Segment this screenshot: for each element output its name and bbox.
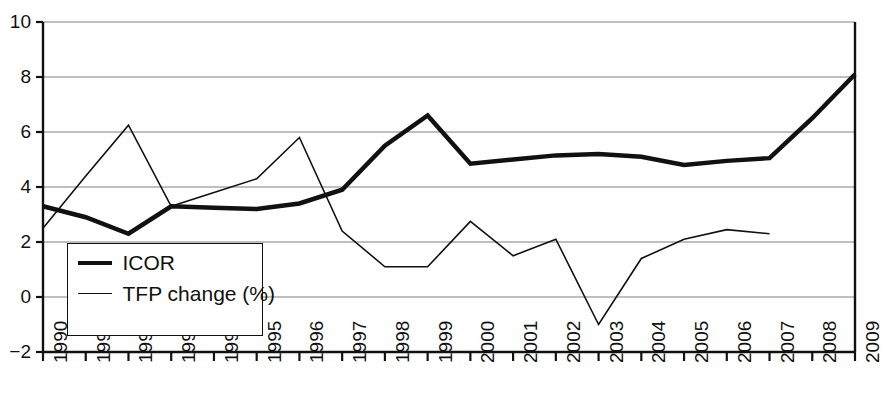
x-axis-label-2004: 2004 xyxy=(649,321,668,363)
x-axis-label-1995: 1995 xyxy=(265,321,284,363)
series-line-icor xyxy=(43,74,855,234)
legend-swatch-tfp-change xyxy=(78,293,112,294)
y-axis-label-0: 0 xyxy=(0,287,31,306)
y-axis-label-2: 2 xyxy=(0,232,31,251)
x-axis-label-2009: 2009 xyxy=(863,321,882,363)
x-axis-label-1996: 1996 xyxy=(307,321,326,363)
y-axis-label--2: −2 xyxy=(0,342,31,361)
legend-label-icor: ICOR xyxy=(123,252,176,273)
x-axis-label-2002: 2002 xyxy=(564,321,583,363)
y-axis-label-8: 8 xyxy=(0,67,31,86)
legend-swatch-icor xyxy=(78,261,112,265)
x-axis-label-2003: 2003 xyxy=(607,321,626,363)
legend-item-tfp-change: TFP change (%) xyxy=(78,278,255,309)
x-axis-label-1997: 1997 xyxy=(350,321,369,363)
x-axis-label-2008: 2008 xyxy=(820,321,839,363)
x-axis-label-2000: 2000 xyxy=(478,321,497,363)
legend-item-icor: ICOR xyxy=(78,247,255,278)
x-axis-label-2006: 2006 xyxy=(735,321,754,363)
x-axis-label-2005: 2005 xyxy=(692,321,711,363)
chart-legend: ICOR TFP change (%) xyxy=(67,243,264,335)
y-axis-label-6: 6 xyxy=(0,122,31,141)
x-axis-label-1998: 1998 xyxy=(393,321,412,363)
x-axis-label-2007: 2007 xyxy=(778,321,797,363)
y-axis-label-4: 4 xyxy=(0,177,31,196)
x-axis-label-1999: 1999 xyxy=(436,321,455,363)
x-axis-label-2001: 2001 xyxy=(521,321,540,363)
legend-label-tfp-change: TFP change (%) xyxy=(123,283,276,304)
y-axis-label-10: 10 xyxy=(0,12,31,31)
